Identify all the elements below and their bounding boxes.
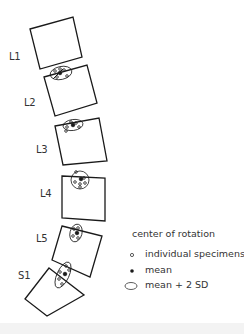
cor-l1-l2 [49,64,73,81]
label-l3: L3 [36,144,48,155]
label-l5: L5 [36,233,48,244]
label-l4: L4 [40,188,52,199]
vertebra-l1 [30,17,82,69]
legend-label: mean + 2 SD [145,279,208,290]
vertebra-s1 [25,268,84,316]
ellipse-icon [124,281,140,291]
legend-label: mean [145,264,172,275]
cor-l4-l5 [68,223,84,243]
label-l1: L1 [9,51,21,62]
vertebra-l2 [44,65,97,116]
cor-l2-l3 [62,118,83,132]
legend-label: individual specimens [145,248,244,259]
cor-l3-l4 [71,171,89,189]
filled-dot-icon [124,266,140,276]
hollow-dot-icon [124,250,140,260]
label-l2: L2 [24,97,36,108]
label-s1: S1 [18,270,30,281]
legend-title: center of rotation [132,228,215,239]
